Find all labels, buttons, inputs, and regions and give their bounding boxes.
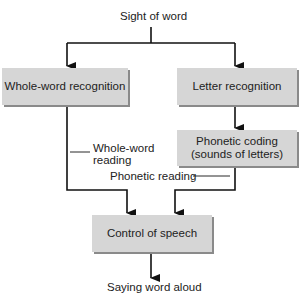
phonetic-coding-box: Phonetic coding (sounds of letters) <box>177 130 297 166</box>
control-of-speech-box: Control of speech <box>92 215 212 252</box>
control-of-speech-text: Control of speech <box>107 227 197 240</box>
whole-word-recognition-text: Whole-word recognition <box>5 80 126 93</box>
whole-word-reading-line2: reading <box>93 154 154 166</box>
whole-word-reading-line1: Whole-word <box>93 142 154 154</box>
phonetic-reading-label: Phonetic reading <box>110 170 196 183</box>
letter-recognition-box: Letter recognition <box>177 68 297 105</box>
bottom-label: Saying word aloud <box>107 281 202 294</box>
letter-recognition-text: Letter recognition <box>193 80 282 93</box>
top-label: Sight of word <box>120 10 187 23</box>
phonetic-coding-subtext: (sounds of letters) <box>191 148 283 161</box>
whole-word-recognition-box: Whole-word recognition <box>2 68 128 105</box>
whole-word-reading-label: Whole-word reading <box>93 142 154 166</box>
phonetic-coding-text: Phonetic coding <box>196 135 278 148</box>
